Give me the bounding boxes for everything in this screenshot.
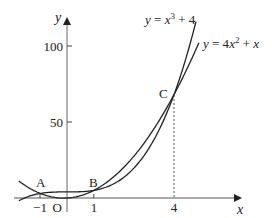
graph-figure: y x 100 50 −1 O 1 4 A B C y = x3 + 4 y =…	[0, 0, 272, 218]
point-a-label: A	[36, 175, 46, 190]
origin-label: O	[53, 200, 62, 215]
y-axis-label: y	[53, 10, 62, 25]
x-axis-label: x	[236, 202, 244, 217]
point-b-label: B	[89, 175, 98, 190]
y-tick-label-100: 100	[44, 39, 64, 54]
quadratic-equation-label: y = 4x2 + x	[201, 35, 259, 51]
x-tick-label-1: 1	[91, 200, 98, 215]
x-tick-label-neg1: −1	[33, 200, 47, 215]
x-tick-label-4: 4	[171, 200, 178, 215]
y-tick-label-50: 50	[50, 115, 63, 130]
point-c-label: C	[159, 86, 168, 101]
cubic-equation-label: y = x3 + 4	[143, 11, 196, 27]
quadratic-curve	[19, 43, 199, 198]
